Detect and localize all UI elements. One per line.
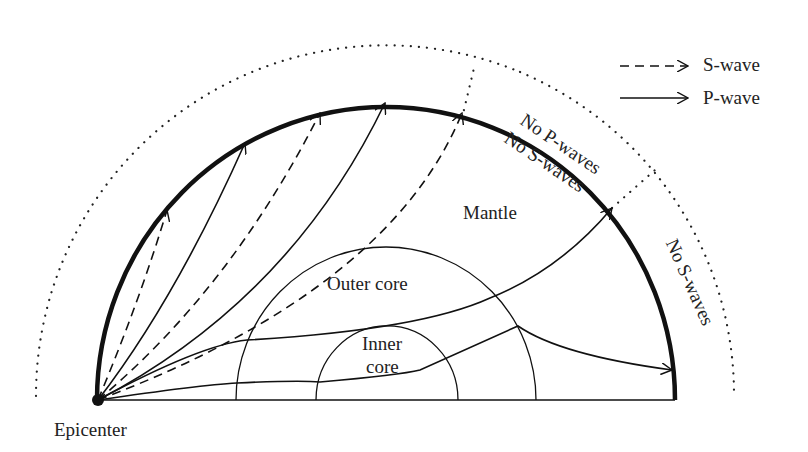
outer-core-label: Outer core	[327, 274, 408, 293]
legend	[620, 66, 688, 98]
epicenter-dot	[92, 394, 104, 406]
legend-s-wave-label: S-wave	[703, 55, 760, 74]
inner-core-label-line2: core	[366, 357, 399, 376]
outer-core-boundary	[236, 247, 536, 400]
epicenter-label: Epicenter	[54, 420, 127, 439]
legend-p-wave-label: P-wave	[703, 88, 760, 107]
s-wave-rays	[98, 113, 462, 400]
inner-core-label-line1: Inner	[362, 334, 402, 353]
earth-diagram	[0, 0, 808, 452]
mantle-label: Mantle	[463, 203, 517, 222]
